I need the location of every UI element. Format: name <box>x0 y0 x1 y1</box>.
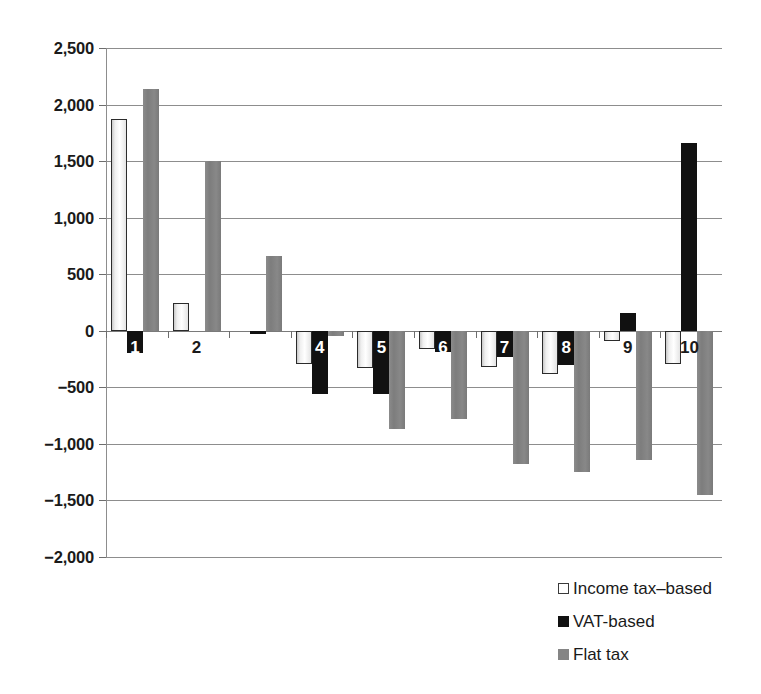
y-axis-tick-label: 2,500 <box>30 39 94 58</box>
bar-flat-10 <box>697 331 713 495</box>
y-axis-tick-mark <box>99 331 106 332</box>
x-axis-category-label: 1 <box>130 338 139 358</box>
x-axis-tick-mark <box>229 331 230 338</box>
x-axis-tick-mark <box>599 331 600 338</box>
y-axis-tick-label: −500 <box>30 378 94 397</box>
y-axis-tick-mark <box>99 387 106 388</box>
y-axis-tick-mark <box>99 444 106 445</box>
x-axis-category-label: 8 <box>561 338 570 358</box>
legend-label: VAT-based <box>573 613 655 630</box>
bar-flat-2 <box>205 161 221 331</box>
bar-flat-7 <box>513 331 529 464</box>
y-axis-spine <box>106 48 107 557</box>
y-axis-tick-mark <box>99 161 106 162</box>
legend-label: Income tax–based <box>573 580 712 597</box>
legend: Income tax–basedVAT-basedFlat tax <box>558 572 758 671</box>
bar-income-7 <box>481 331 497 367</box>
bar-income-8 <box>542 331 558 375</box>
bar-flat-1 <box>143 89 159 331</box>
gridline <box>106 274 722 275</box>
x-axis-tick-mark <box>168 331 169 338</box>
x-axis-tick-mark <box>352 331 353 338</box>
x-axis-tick-mark <box>476 331 477 338</box>
bar-income-9 <box>604 331 620 341</box>
y-axis-tick-mark <box>99 274 106 275</box>
y-axis-tick-mark <box>99 218 106 219</box>
y-axis-tick-mark <box>99 500 106 501</box>
legend-label: Flat tax <box>573 646 629 663</box>
bar-flat-5 <box>389 331 405 429</box>
y-axis-tick-mark <box>99 48 106 49</box>
x-axis-category-label: 5 <box>377 338 386 358</box>
x-axis-category-label: 6 <box>438 338 447 358</box>
gridline <box>106 557 722 558</box>
gridline <box>106 444 722 445</box>
gridline <box>106 387 722 388</box>
x-axis-category-label: 4 <box>315 338 324 358</box>
bar-income-6 <box>419 331 435 349</box>
x-axis-tick-mark <box>414 331 415 338</box>
gridline <box>106 105 722 106</box>
plot-area: 12345678910 <box>106 48 722 557</box>
x-axis-category-label: 7 <box>500 338 509 358</box>
bar-vat-10 <box>681 143 697 331</box>
y-axis-tick-label: 500 <box>30 265 94 284</box>
x-axis-category-label: 2 <box>192 338 201 358</box>
y-axis-tick-label: −1,500 <box>30 491 94 510</box>
legend-item: VAT-based <box>558 605 758 638</box>
x-axis-category-label: 10 <box>680 338 699 358</box>
legend-item: Flat tax <box>558 638 758 671</box>
gridline <box>106 500 722 501</box>
bar-vat-9 <box>620 313 636 331</box>
bar-income-5 <box>357 331 373 368</box>
x-axis-tick-mark <box>291 331 292 338</box>
y-axis-tick-mark <box>99 105 106 106</box>
bar-income-2 <box>173 303 189 331</box>
x-axis-tick-mark <box>106 331 107 338</box>
bar-flat-8 <box>574 331 590 472</box>
bar-chart: 2,5002,0001,5001,0005000−500−1,000−1,500… <box>0 0 761 694</box>
bar-flat-3 <box>266 256 282 331</box>
bar-income-4 <box>296 331 312 364</box>
gridline <box>106 48 722 49</box>
bar-flat-4 <box>328 331 344 337</box>
x-axis-category-label: 3 <box>253 338 262 358</box>
bar-vat-3 <box>250 331 266 334</box>
legend-swatch-flat <box>558 649 569 660</box>
bar-flat-9 <box>636 331 652 460</box>
bar-flat-6 <box>451 331 467 419</box>
y-axis-tick-label: 1,500 <box>30 152 94 171</box>
x-axis-category-label: 9 <box>623 338 632 358</box>
y-axis-tick-label: 0 <box>30 321 94 340</box>
y-axis-tick-mark <box>99 557 106 558</box>
y-axis-tick-label: −2,000 <box>30 548 94 567</box>
x-axis-tick-mark <box>537 331 538 338</box>
gridline <box>106 218 722 219</box>
legend-item: Income tax–based <box>558 572 758 605</box>
y-axis-tick-label: 1,000 <box>30 208 94 227</box>
bar-income-1 <box>111 119 127 331</box>
gridline <box>106 161 722 162</box>
y-axis-tick-label: −1,000 <box>30 434 94 453</box>
y-axis-tick-label: 2,000 <box>30 95 94 114</box>
legend-swatch-vat <box>558 616 569 627</box>
x-axis-tick-mark <box>660 331 661 338</box>
legend-swatch-income <box>558 583 569 594</box>
